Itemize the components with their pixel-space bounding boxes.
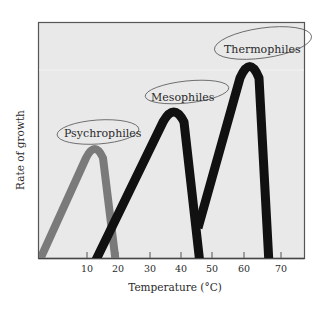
growth-rate-chart: Psychrophiles Mesophiles Thermophiles 10… bbox=[0, 0, 324, 311]
svg-text:30: 30 bbox=[144, 263, 156, 274]
svg-text:40: 40 bbox=[175, 263, 187, 274]
svg-text:50: 50 bbox=[206, 263, 218, 274]
thermophiles-label: Thermophiles bbox=[224, 43, 301, 56]
x-axis-label: Temperature (°C) bbox=[128, 281, 222, 293]
psychrophiles-label: Psychrophiles bbox=[64, 127, 142, 140]
x-tick-labels: 10 20 30 40 50 60 70 bbox=[81, 263, 287, 274]
mesophiles-label: Mesophiles bbox=[151, 91, 215, 104]
svg-text:10: 10 bbox=[81, 263, 93, 274]
y-axis-label: Rate of growth bbox=[14, 110, 26, 190]
svg-text:60: 60 bbox=[238, 263, 250, 274]
svg-text:20: 20 bbox=[112, 263, 124, 274]
svg-text:70: 70 bbox=[275, 263, 287, 274]
